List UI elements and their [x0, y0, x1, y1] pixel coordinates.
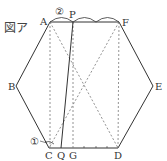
label-Q: Q [57, 150, 65, 161]
hexagon-diagram: 図ア A F P ② B E C Q G D ① [0, 0, 167, 161]
arc-mid-F [96, 18, 119, 23]
label-P: P [69, 9, 76, 20]
label-G: G [69, 150, 77, 161]
label-A: A [39, 16, 48, 27]
label-D: D [114, 150, 122, 161]
dashed-line-F-C [49, 22, 119, 148]
figure-title: 図ア [4, 21, 28, 35]
label-B: B [8, 81, 15, 92]
label-F: F [122, 17, 129, 28]
label-C: C [45, 150, 53, 161]
arc-P-mid [73, 18, 96, 23]
label-E: E [155, 81, 162, 92]
hexagon-outline [16, 22, 153, 148]
line-P-Q [61, 22, 73, 148]
marker-1: ① [30, 136, 39, 147]
dashed-line-F-D [118, 22, 119, 148]
marker-2: ② [55, 6, 64, 17]
